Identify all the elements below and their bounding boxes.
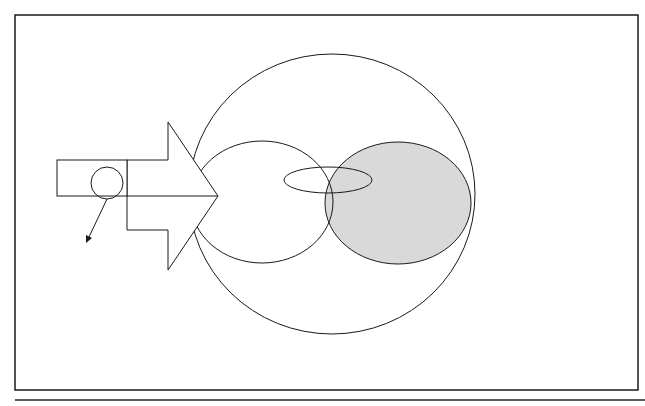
listening-comprehension-circle bbox=[325, 142, 471, 264]
pointer-line bbox=[89, 199, 107, 237]
diagram-canvas bbox=[0, 0, 645, 406]
